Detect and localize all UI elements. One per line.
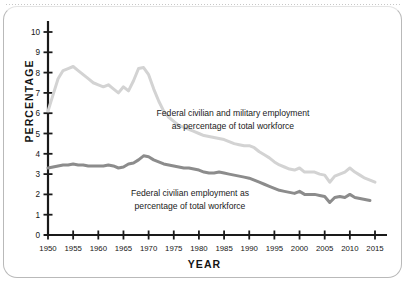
x-axis-label: YEAR — [0, 258, 409, 270]
y-tick-label: 3 — [35, 170, 40, 179]
x-tick-label: 2015 — [366, 244, 384, 253]
x-tick-label: 2010 — [341, 244, 359, 253]
total-series-annotation-line1: Federal civilian and military employment — [157, 108, 310, 118]
total-series-annotation-line2: as percentage of total workforce — [172, 121, 295, 131]
x-tick-label: 1960 — [90, 244, 108, 253]
y-axis-label: PERCENTAGE — [23, 46, 35, 156]
y-tick-label: 1 — [35, 211, 40, 220]
x-tick-label: 2005 — [316, 244, 334, 253]
x-tick-label: 1970 — [140, 244, 158, 253]
y-tick-label: 6 — [35, 109, 40, 118]
x-tick-label: 1965 — [115, 244, 133, 253]
x-tick-label: 1955 — [64, 244, 82, 253]
y-tick-label: 2 — [35, 190, 40, 199]
x-tick-label: 1990 — [241, 244, 259, 253]
y-tick-label: 9 — [35, 48, 40, 57]
y-tick-label: 0 — [35, 231, 40, 240]
civilian-series-annotation-line1: Federal civilian employment as — [131, 188, 249, 198]
y-tick-label: 10 — [31, 28, 41, 37]
y-tick-label: 5 — [35, 130, 40, 139]
y-tick-label: 7 — [35, 89, 40, 98]
x-tick-label: 1950 — [39, 244, 57, 253]
x-tick-label: 1975 — [165, 244, 183, 253]
x-tick-label: 2000 — [291, 244, 309, 253]
x-tick-label: 1980 — [190, 244, 208, 253]
x-tick-label: 1995 — [266, 244, 284, 253]
y-tick-label: 8 — [35, 69, 40, 78]
civilian-series-annotation-line2: percentage of total workforce — [135, 201, 246, 211]
chart-plot-area: 0123456789101950195519601965197019751980… — [0, 0, 409, 286]
chart-figure: 0123456789101950195519601965197019751980… — [0, 0, 409, 286]
y-tick-label: 4 — [35, 150, 40, 159]
x-tick-label: 1985 — [215, 244, 233, 253]
